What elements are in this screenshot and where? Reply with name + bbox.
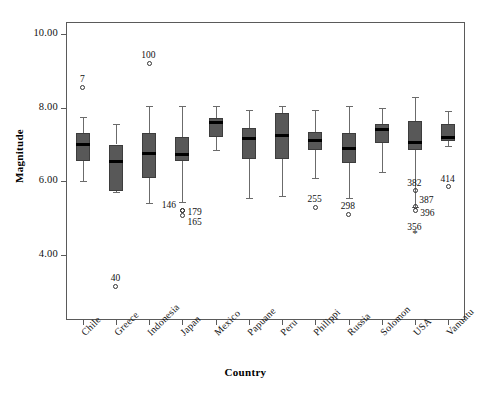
median-line bbox=[142, 152, 156, 155]
whisker-cap-upper bbox=[80, 117, 87, 118]
median-line bbox=[375, 128, 389, 131]
median-line bbox=[408, 141, 422, 144]
box-iqr bbox=[175, 137, 189, 161]
whisker-lower bbox=[315, 150, 316, 178]
whisker-lower bbox=[83, 161, 84, 181]
whisker-cap-lower bbox=[246, 198, 253, 199]
box-iqr bbox=[242, 128, 256, 159]
whisker-upper bbox=[448, 111, 449, 124]
whisker-upper bbox=[415, 97, 416, 121]
outlier-label-414: 414 bbox=[441, 174, 455, 184]
outlier-label-298: 298 bbox=[341, 201, 355, 211]
whisker-upper bbox=[249, 110, 250, 128]
whisker-lower bbox=[349, 163, 350, 198]
median-line bbox=[109, 160, 123, 163]
outlier-marker-396 bbox=[413, 208, 418, 213]
box-iqr bbox=[76, 133, 90, 161]
median-line bbox=[441, 136, 455, 139]
whisker-upper bbox=[282, 106, 283, 113]
whisker-cap-lower bbox=[312, 178, 319, 179]
whisker-upper bbox=[216, 106, 217, 118]
whisker-upper bbox=[116, 124, 117, 144]
outlier-label-396: 396 bbox=[420, 208, 434, 218]
whisker-cap-upper bbox=[346, 106, 353, 107]
outlier-label-100: 100 bbox=[141, 50, 155, 60]
x-axis-title: Country bbox=[0, 366, 491, 378]
box-iqr bbox=[408, 121, 422, 150]
outlier-label-382: 382 bbox=[407, 178, 421, 188]
median-line bbox=[175, 153, 189, 156]
outlier-label-255: 255 bbox=[308, 194, 322, 204]
whisker-upper bbox=[83, 117, 84, 134]
outlier-marker-100 bbox=[147, 61, 152, 66]
whisker-cap-lower bbox=[346, 198, 353, 199]
whisker-cap-upper bbox=[213, 106, 220, 107]
y-tick-label: 8.00 bbox=[14, 101, 58, 112]
box-iqr bbox=[375, 124, 389, 142]
median-line bbox=[308, 139, 322, 142]
outlier-marker-382 bbox=[413, 188, 418, 193]
whisker-cap-lower bbox=[379, 172, 386, 173]
whisker-cap-upper bbox=[279, 106, 286, 107]
whisker-cap-upper bbox=[379, 108, 386, 109]
whisker-lower bbox=[382, 143, 383, 172]
whisker-cap-lower bbox=[279, 196, 286, 197]
whisker-lower bbox=[282, 159, 283, 196]
chart-canvas: Magnitude 4.006.008.0010.00 740100146179… bbox=[0, 0, 491, 396]
outlier-label-165: 165 bbox=[187, 217, 201, 227]
whisker-cap-upper bbox=[412, 97, 419, 98]
whisker-cap-lower bbox=[80, 181, 87, 182]
median-line bbox=[275, 134, 289, 137]
outlier-label-146: 146 bbox=[162, 200, 176, 210]
whisker-cap-upper bbox=[179, 106, 186, 107]
whisker-lower bbox=[249, 159, 250, 198]
median-line bbox=[76, 143, 90, 146]
whisker-cap-lower bbox=[213, 150, 220, 151]
median-line bbox=[242, 137, 256, 140]
outlier-label-387: 387 bbox=[419, 195, 433, 205]
whisker-lower bbox=[149, 178, 150, 204]
whisker-cap-upper bbox=[312, 110, 319, 111]
whisker-upper bbox=[382, 108, 383, 125]
whisker-cap-upper bbox=[146, 106, 153, 107]
whisker-cap-upper bbox=[113, 124, 120, 125]
median-line bbox=[342, 147, 356, 150]
whisker-cap-lower bbox=[146, 203, 153, 204]
box-iqr bbox=[109, 145, 123, 191]
whisker-cap-lower bbox=[113, 192, 120, 193]
y-tick-label: 4.00 bbox=[14, 248, 58, 259]
whisker-upper bbox=[315, 110, 316, 132]
outlier-marker-179 bbox=[180, 208, 185, 213]
whisker-upper bbox=[182, 106, 183, 137]
whisker-lower bbox=[216, 137, 217, 150]
whisker-cap-upper bbox=[246, 110, 253, 111]
y-tick-label: 10.00 bbox=[14, 27, 58, 38]
outlier-label-356: 356 bbox=[407, 222, 421, 232]
outlier-label-7: 7 bbox=[80, 74, 85, 84]
whisker-cap-lower bbox=[179, 202, 186, 203]
whisker-upper bbox=[149, 106, 150, 134]
whisker-upper bbox=[349, 106, 350, 134]
whisker-cap-lower bbox=[445, 146, 452, 147]
y-tick-label: 6.00 bbox=[14, 174, 58, 185]
plot-frame bbox=[66, 22, 465, 320]
whisker-cap-upper bbox=[445, 111, 452, 112]
median-line bbox=[209, 121, 223, 124]
outlier-marker-255 bbox=[313, 205, 318, 210]
outlier-label-179: 179 bbox=[187, 207, 201, 217]
whisker-lower bbox=[182, 161, 183, 202]
outlier-label-40: 40 bbox=[111, 273, 121, 283]
box-iqr bbox=[142, 133, 156, 177]
